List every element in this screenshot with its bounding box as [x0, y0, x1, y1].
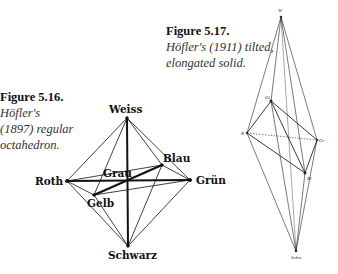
label-schwarz: Schwarz: [108, 249, 157, 261]
label-grau: Grau: [103, 167, 132, 179]
octahedron-diagram: [65, 117, 191, 248]
label-gr: Gr: [319, 138, 325, 143]
label-schw: Schw: [291, 255, 302, 260]
diagrams-canvas: Weiss Schwarz Roth Grün Blau Gelb Grau W…: [0, 0, 338, 274]
label-gruen: Grün: [196, 174, 226, 186]
label-weiss: Weiss: [108, 103, 143, 115]
label-gelb: Gelb: [87, 197, 114, 209]
label-blau: Blau: [163, 152, 191, 164]
label-r: R: [240, 131, 244, 136]
label-bl: Bl: [307, 176, 312, 181]
label-gt: Gt: [265, 95, 271, 100]
label-w: W: [278, 8, 283, 13]
label-roth: Roth: [35, 175, 64, 187]
elongated-solid-diagram: [246, 16, 318, 252]
